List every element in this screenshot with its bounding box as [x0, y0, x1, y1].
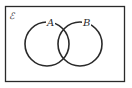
universal-set-rectangle [6, 7, 125, 82]
set-b-label: B [82, 17, 90, 28]
universal-set-label: ℰ [9, 11, 16, 21]
set-a-label: A [46, 17, 54, 28]
set-b-circle [58, 22, 102, 66]
venn-diagram: ℰ A B [0, 0, 132, 88]
set-a-circle [25, 22, 69, 66]
